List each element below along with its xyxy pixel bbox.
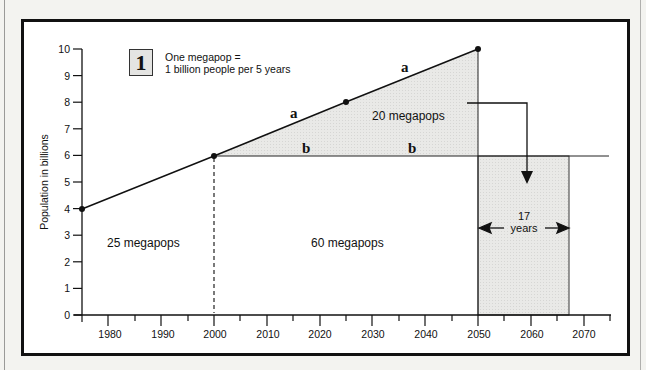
svg-text:2020: 2020	[308, 328, 332, 340]
y-tick-labels: 0 1 2 3 4 5 6 7 8 9 10	[58, 43, 70, 321]
svg-text:2050: 2050	[467, 328, 491, 340]
svg-text:2: 2	[64, 256, 70, 268]
svg-text:2000: 2000	[203, 328, 227, 340]
legend-line-2: 1 billion people per 5 years	[165, 63, 291, 75]
svg-text:1990: 1990	[151, 328, 175, 340]
segment-label-a-1: a	[290, 105, 298, 121]
svg-text:1: 1	[64, 282, 70, 294]
svg-text:4: 4	[64, 203, 70, 215]
population-chart: 0 1 2 3 4 5 6 7 8 9 10 1980 1990 2000 20…	[0, 0, 646, 370]
region-label-left: 25 megapops	[107, 236, 180, 250]
region-label-triangle: 20 megapops	[372, 109, 445, 123]
figure-number-badge: 1	[129, 49, 153, 76]
svg-text:2070: 2070	[572, 328, 596, 340]
svg-text:0: 0	[64, 309, 70, 321]
svg-text:10: 10	[58, 43, 70, 55]
segment-label-b-1: b	[302, 140, 310, 156]
bar-value-label: 17	[518, 210, 530, 222]
svg-text:2060: 2060	[520, 328, 544, 340]
svg-text:8: 8	[64, 96, 70, 108]
region-label-middle: 60 megapops	[311, 236, 384, 250]
extension-shaded-region	[478, 156, 569, 315]
x-ticks	[82, 315, 610, 326]
svg-text:2040: 2040	[414, 328, 438, 340]
x-tick-labels: 1980 1990 2000 2010 2020 2030 2040 2050 …	[98, 328, 596, 340]
svg-text:2030: 2030	[361, 328, 385, 340]
legend-line-1: One megapop =	[165, 51, 291, 63]
svg-text:7: 7	[64, 123, 70, 135]
segment-label-b-2: b	[408, 140, 416, 156]
svg-text:5: 5	[64, 176, 70, 188]
svg-text:6: 6	[64, 149, 70, 161]
y-axis-label: Population in billions	[38, 134, 50, 230]
segment-label-a-2: a	[401, 59, 409, 75]
legend-definition: One megapop = 1 billion people per 5 yea…	[165, 51, 291, 75]
bar-unit-label: years	[511, 222, 538, 234]
svg-text:9: 9	[64, 70, 70, 82]
svg-text:3: 3	[64, 229, 70, 241]
svg-text:1980: 1980	[98, 328, 122, 340]
svg-text:2010: 2010	[256, 328, 280, 340]
y-ticks	[73, 49, 82, 315]
